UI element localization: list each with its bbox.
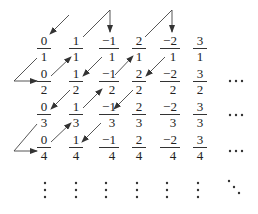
ellipsis-marks	[0, 0, 258, 214]
rational-enumeration-diagram: 01 11 −11 21 −21 31 02 12 −12 22 −22 32 …	[0, 0, 258, 214]
